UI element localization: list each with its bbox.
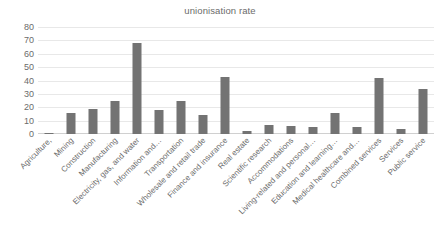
bar[interactable] <box>155 110 164 134</box>
bar-slot <box>104 27 126 134</box>
bar-slot <box>214 27 236 134</box>
bar-slot <box>126 27 148 134</box>
bar[interactable] <box>45 133 54 135</box>
bar[interactable] <box>243 131 252 134</box>
x-axis-tick: Transportation <box>179 136 185 142</box>
bar[interactable] <box>287 126 296 134</box>
bar-slot <box>236 27 258 134</box>
bar[interactable] <box>265 125 274 134</box>
bar-slot <box>38 27 60 134</box>
bar-slot <box>82 27 104 134</box>
bar[interactable] <box>419 89 428 134</box>
bar-slot <box>148 27 170 134</box>
x-axis-tick: Agriculture, <box>47 136 53 142</box>
bar[interactable] <box>133 43 142 134</box>
bar[interactable] <box>177 101 186 134</box>
bar[interactable] <box>375 78 384 134</box>
bar-slot <box>390 27 412 134</box>
bar[interactable] <box>111 101 120 134</box>
bar-slot <box>280 27 302 134</box>
bar[interactable] <box>221 77 230 135</box>
chart-title: unionisation rate <box>0 5 440 16</box>
x-axis-tick: Manufacturing <box>113 136 119 142</box>
y-axis-tick-label: 20 <box>0 103 34 112</box>
x-axis-tick: Mining <box>69 136 75 142</box>
bar[interactable] <box>89 109 98 134</box>
y-axis-tick-label: 70 <box>0 36 34 45</box>
bar-slot <box>302 27 324 134</box>
x-axis-tick: Finance and insurance <box>223 136 229 142</box>
bars-layer <box>38 27 434 134</box>
y-axis-tick-label: 10 <box>0 116 34 125</box>
y-axis-tick-label: 40 <box>0 76 34 85</box>
x-axis-tick: Scientific research <box>267 136 273 142</box>
x-axis-tick: Medical healthcare and… <box>355 136 361 142</box>
bar-slot <box>324 27 346 134</box>
x-axis-tick-label: Agriculture, <box>18 136 53 171</box>
bar-slot <box>346 27 368 134</box>
x-axis-tick: Wholesale and retail trade <box>201 136 207 142</box>
x-axis-tick: Real estate <box>245 136 251 142</box>
bar[interactable] <box>67 113 76 134</box>
bar-slot <box>170 27 192 134</box>
bar[interactable] <box>331 113 340 134</box>
y-axis-tick-label: 30 <box>0 89 34 98</box>
bar-slot <box>368 27 390 134</box>
x-axis-tick: Information and… <box>157 136 163 142</box>
y-axis-tick-label: 80 <box>0 23 34 32</box>
bar-slot <box>258 27 280 134</box>
x-axis-tick: Services <box>399 136 405 142</box>
x-axis-tick: Education and learning… <box>333 136 339 142</box>
unionisation-rate-bar-chart: unionisation rate 01020304050607080 Agri… <box>0 0 440 245</box>
bar[interactable] <box>353 127 362 134</box>
y-axis-tick-label: 50 <box>0 63 34 72</box>
x-axis: Agriculture,MiningConstructionManufactur… <box>38 136 434 245</box>
y-axis-tick-label: 60 <box>0 49 34 58</box>
bar[interactable] <box>309 127 318 134</box>
x-axis-tick: Construction <box>91 136 97 142</box>
bar-slot <box>192 27 214 134</box>
bar-slot <box>412 27 434 134</box>
x-axis-tick: Combined services <box>377 136 383 142</box>
bar[interactable] <box>397 129 406 134</box>
y-axis-tick-label: 0 <box>0 130 34 139</box>
bar-slot <box>60 27 82 134</box>
bar[interactable] <box>199 115 208 134</box>
x-axis-tick: Living-related and personal… <box>311 136 317 142</box>
x-axis-tick: Accommodations <box>289 136 295 142</box>
x-axis-tick: Electricity, gas, and water <box>135 136 141 142</box>
x-axis-tick: Public service <box>421 136 427 142</box>
y-axis: 01020304050607080 <box>0 27 34 134</box>
